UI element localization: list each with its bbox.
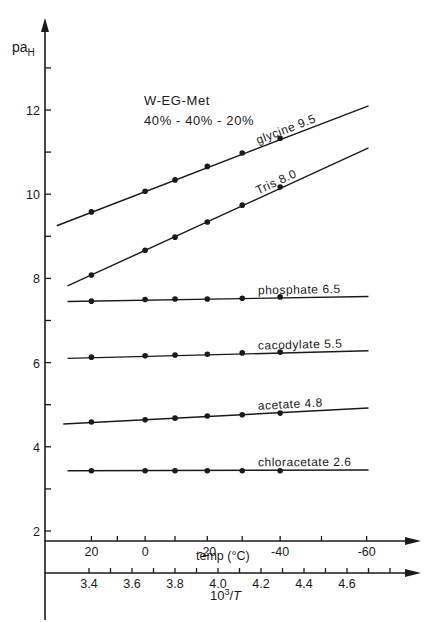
series-phosphate: phosphate 6.5: [68, 282, 369, 304]
data-point: [142, 247, 148, 253]
x-tick-label: 3.4: [80, 577, 97, 591]
data-point: [172, 415, 178, 421]
data-point: [239, 150, 245, 156]
data-point: [142, 188, 148, 194]
temp-tick-label: -60: [358, 545, 376, 559]
series-label: cacodylate 5.5: [258, 336, 343, 352]
data-point: [172, 296, 178, 302]
data-point: [204, 351, 210, 357]
data-point: [89, 298, 95, 304]
data-point: [89, 419, 95, 425]
series-chloracetate: chloracetate 2.6: [68, 455, 369, 474]
x-tick-label: 3.8: [166, 577, 183, 591]
data-point: [172, 234, 178, 240]
series-line: [68, 470, 369, 471]
y-axis-arrow: [41, 18, 49, 32]
y-tick-label: 10: [26, 188, 40, 202]
data-point: [142, 297, 148, 303]
temp-axis-arrow: [405, 537, 421, 545]
series-line: [68, 351, 369, 359]
data-point: [89, 468, 95, 474]
x-tick-label: 4.6: [338, 577, 355, 591]
temp-tick-label: 20: [84, 545, 98, 559]
series-cacodylate: cacodylate 5.5: [68, 336, 369, 359]
series-label: phosphate 6.5: [258, 282, 341, 297]
temp-axis-title: temp (°C): [196, 549, 250, 563]
temp-tick-label: 0: [142, 545, 149, 559]
annotation-line-1: W-EG-Met: [144, 93, 210, 108]
series-label: acetate 4.8: [257, 395, 323, 412]
y-tick-label: 6: [33, 357, 40, 371]
temp-tick-label: -40: [271, 545, 289, 559]
x-tick-label: 4.4: [295, 577, 312, 591]
data-point: [142, 353, 148, 359]
series-layer: glycine 9.5Tris 8.0phosphate 6.5cacodyla…: [57, 106, 369, 474]
x-tick-label: 3.6: [123, 577, 140, 591]
data-point: [239, 202, 245, 208]
data-point: [204, 413, 210, 419]
series-acetate: acetate 4.8: [63, 395, 368, 424]
series-line: [68, 297, 369, 302]
y-tick-label: 12: [26, 104, 40, 118]
data-point: [89, 354, 95, 360]
data-point: [142, 468, 148, 474]
x-axis-arrow: [405, 569, 421, 577]
data-point: [204, 296, 210, 302]
data-point: [204, 219, 210, 225]
data-point: [89, 272, 95, 278]
data-point: [89, 209, 95, 215]
y-tick-label: 8: [33, 272, 40, 286]
data-point: [142, 417, 148, 423]
data-point: [172, 352, 178, 358]
x-tick-label: 4.2: [252, 577, 269, 591]
series-Tris: Tris 8.0: [68, 148, 369, 286]
series-line: [63, 408, 368, 424]
data-point: [172, 177, 178, 183]
y-tick-label: 4: [33, 441, 40, 455]
data-point: [239, 295, 245, 301]
data-point: [239, 350, 245, 356]
data-point: [172, 468, 178, 474]
series-label: chloracetate 2.6: [258, 455, 351, 469]
x-axis-title: 103/T: [210, 587, 242, 603]
series-line: [68, 148, 369, 286]
data-point: [239, 412, 245, 418]
data-point: [204, 164, 210, 170]
data-point: [204, 468, 210, 474]
chart: 24681012200-20-40-603.43.63.84.04.24.44.…: [0, 0, 439, 622]
series-label: Tris 8.0: [253, 166, 298, 197]
y-tick-label: 2: [33, 525, 40, 539]
y-axis-label: paH: [12, 39, 35, 58]
data-point: [239, 468, 245, 474]
annotation-line-2: 40% - 40% - 20%: [144, 113, 254, 128]
